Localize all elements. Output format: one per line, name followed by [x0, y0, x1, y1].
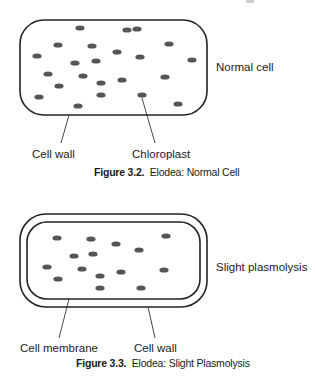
chloroplast — [122, 27, 131, 32]
chloroplast — [187, 57, 196, 62]
chloroplast — [53, 42, 62, 47]
chloroplast — [134, 247, 143, 252]
chloroplast — [135, 54, 144, 59]
callout-cell-membrane: Cell membrane — [20, 342, 98, 354]
callout-chloroplast: Chloroplast — [132, 148, 190, 160]
chloroplast — [70, 60, 79, 65]
state-label-normal-cell: Normal cell — [216, 61, 274, 73]
figure-number: Figure 3.2. — [94, 166, 144, 178]
chloroplast — [95, 273, 104, 278]
chloroplast — [75, 25, 84, 30]
chloroplast — [86, 236, 95, 241]
chloroplast — [96, 92, 105, 97]
figure-number: Figure 3.3. — [76, 357, 126, 369]
chloroplast — [96, 80, 105, 85]
chloroplast — [117, 77, 126, 82]
chloroplast — [73, 103, 82, 108]
chloroplast — [116, 269, 125, 274]
chloroplast — [54, 83, 63, 88]
chloroplast — [111, 241, 120, 246]
state-label-slight-plasmolysis: Slight plasmolysis — [216, 261, 307, 273]
cell-membrane-leader-line — [59, 299, 69, 338]
chloroplast — [91, 58, 100, 63]
callout-cell-wall: Cell wall — [32, 148, 75, 160]
cell-wall-leader-line — [148, 307, 155, 338]
chloroplast — [69, 253, 78, 258]
chloroplast-leader-line — [142, 98, 155, 143]
chloroplast — [137, 92, 146, 97]
chloroplast — [43, 71, 52, 76]
chloroplast — [34, 94, 43, 99]
chloroplast — [136, 285, 145, 290]
chloroplast — [77, 266, 86, 271]
figure-normal-cell: Normal cell Cell wall Chloroplast Figure… — [0, 0, 315, 195]
chloroplast — [53, 276, 62, 281]
chloroplast — [161, 233, 170, 238]
chloroplasts-group — [32, 25, 196, 108]
chloroplast — [87, 43, 96, 48]
chloroplast — [88, 251, 97, 256]
cell-membrane-outline — [27, 222, 200, 299]
chloroplast — [132, 26, 141, 31]
chloroplast — [164, 41, 173, 46]
callout-cell-wall: Cell wall — [134, 342, 177, 354]
cell-wall-outline — [20, 20, 207, 115]
figure-title: Elodea: Normal Cell — [150, 166, 240, 178]
plasmolysis-cell-diagram — [0, 200, 315, 383]
chloroplast — [159, 267, 168, 272]
cell-wall-leader-line — [61, 115, 69, 143]
figure-title: Elodea: Slight Plasmolysis — [132, 357, 250, 369]
chloroplast — [52, 235, 61, 240]
chloroplast — [173, 101, 182, 106]
chloroplast — [112, 49, 121, 54]
figure-caption: Figure 3.2. Elodea: Normal Cell — [94, 166, 239, 178]
chloroplast — [160, 74, 169, 79]
chloroplast — [42, 264, 51, 269]
figure-slight-plasmolysis: Slight plasmolysis Cell membrane Cell wa… — [0, 200, 315, 383]
cell-wall-outline — [20, 214, 207, 307]
chloroplasts-group — [42, 233, 170, 290]
chloroplast — [32, 53, 41, 58]
chloroplast — [78, 73, 87, 78]
chloroplast — [95, 285, 104, 290]
figure-caption: Figure 3.3. Elodea: Slight Plasmolysis — [76, 357, 250, 369]
